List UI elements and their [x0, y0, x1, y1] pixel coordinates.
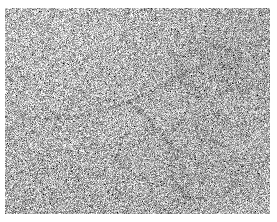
micrograph-figure: [0, 0, 277, 222]
micrograph-plate: [5, 8, 270, 214]
grain-noise-layer: [5, 8, 270, 214]
